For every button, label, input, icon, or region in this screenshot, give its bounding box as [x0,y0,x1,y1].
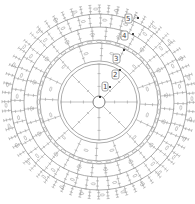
stitch-crossbar [115,191,118,192]
stitch-crossbar [51,38,53,40]
stitch-post [161,95,174,96]
stitch-post [133,13,136,21]
stitch-post [176,144,184,148]
stitch-top [44,20,47,22]
stitch-post [165,59,176,65]
stitch-post [138,150,146,160]
chain-stitch [36,29,41,33]
stitch-post [64,157,70,168]
center-marker [99,96,101,98]
stitch-crossbar [23,79,24,82]
stitch-post [92,27,93,40]
stitch-post [72,75,95,98]
stitch-post [45,175,50,182]
chain-ring-stitch [96,161,101,163]
round-number-3: 3 [114,55,118,63]
stitch-crossbar [166,51,168,53]
stitch-crossbar [179,124,180,127]
stitch-crossbar [119,26,122,27]
stitch-post [10,65,18,68]
stitch-post [108,6,109,15]
stitch-crossbar [76,177,79,178]
stitch-crossbar [71,188,74,189]
stitch-top [194,120,195,123]
chain-stitch [51,168,56,172]
stitch-top [6,72,7,75]
stitch-crossbar [117,165,120,166]
chain-stitch [70,178,75,181]
stitch-top [4,119,5,122]
stitch-top [152,21,154,23]
stitch-crossbar [188,83,189,86]
chain-stitch [100,194,104,196]
start-marker [109,86,111,88]
stitch-top [179,155,181,157]
stitch-post [117,161,121,173]
stitch-post [183,128,192,131]
stitch-post [36,154,45,163]
stitch-post [180,136,188,139]
stitch-post [101,43,102,61]
stitch-post [12,110,25,111]
stitch-crossbar [118,183,121,184]
stitch-post [148,175,153,183]
stitch-top [183,125,184,128]
chain-stitch [146,87,149,92]
stitch-crossbar [116,13,119,14]
chain-symbols [5,8,193,196]
chain-stitch [151,162,156,166]
stitch-top [27,122,28,125]
stitch-post [47,31,55,41]
stitch-post [30,164,36,170]
round-number-2: 2 [113,71,117,79]
stitch-post [51,150,59,160]
stitch-top [179,47,181,50]
stitch-post [158,80,170,84]
stitch-crossbar [48,26,51,28]
round-outline [24,27,174,177]
stitch-top [70,9,73,10]
stitch-post [105,27,106,40]
stitch-post [14,56,22,60]
stitch-post [116,188,118,197]
stitch-top [194,82,195,85]
stitch-crossbar [124,188,127,189]
chain-stitch [152,25,157,29]
stitch-crossbar [162,82,163,85]
stitch-crossbar [31,80,32,83]
stitch-crossbar [185,127,186,130]
round-number-5: 5 [126,15,130,23]
stitch-post [75,174,79,186]
stitch-post [105,164,106,177]
stitch-post [3,92,12,93]
chain-stitch [41,175,46,179]
stitch-post [172,48,180,53]
start-marker [119,69,121,71]
stitch-post [52,44,60,54]
stitch-post [132,183,135,191]
stitch-top [27,153,29,155]
stitch-top [46,30,48,32]
stitch-post [161,34,167,40]
stitch-crossbar [145,165,147,167]
stitch-crossbar [150,180,153,182]
stitch-post [14,78,26,82]
stitch-post [24,95,37,96]
stitch-crossbar [185,75,186,78]
chain-stitch [132,64,137,69]
stitch-crossbar [46,23,49,25]
stitch-crossbar [150,23,152,25]
start-marker [137,17,139,19]
chain-stitch [93,8,97,10]
chain-stitch [165,145,169,150]
stitch-post [107,177,108,190]
chain-stitch [112,181,117,184]
stitch-post [159,50,169,58]
stitch-crossbar [36,81,37,84]
round-label-1: 1 [102,82,111,91]
chain-ring-stitch [96,40,101,42]
stitch-post [110,15,112,28]
magic-ring [93,96,105,108]
stitch-post [171,123,183,127]
stitch-crossbar [6,119,7,122]
